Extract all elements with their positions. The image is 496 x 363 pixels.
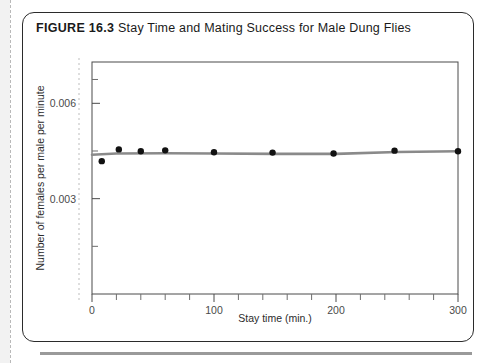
data-point xyxy=(162,147,168,153)
data-point xyxy=(211,149,217,155)
data-point xyxy=(99,158,105,164)
y-axis-title: Number of females per male per minute xyxy=(34,85,46,270)
scatter-chart: 0.0030.006 0100200300 Stay time (min.) N… xyxy=(0,0,496,363)
section-divider-rule xyxy=(40,352,472,355)
y-axis-ticks xyxy=(92,79,100,246)
y-axis-tick-label: 0.006 xyxy=(50,97,76,109)
y-axis-tick-label: 0.003 xyxy=(50,193,76,205)
x-axis-tick-label: 200 xyxy=(327,304,345,316)
x-axis-tick-label: 0 xyxy=(89,304,95,316)
data-point xyxy=(138,148,144,154)
x-axis-ticks xyxy=(92,294,458,302)
data-point xyxy=(391,147,397,153)
x-axis-title: Stay time (min.) xyxy=(238,312,312,324)
data-point xyxy=(116,146,122,152)
data-point xyxy=(330,150,336,156)
x-axis-tick-label: 300 xyxy=(449,304,467,316)
plot-frame xyxy=(92,62,458,294)
data-point xyxy=(455,148,461,154)
data-point xyxy=(269,149,275,155)
data-points xyxy=(99,146,462,164)
y-axis-tick-labels: 0.0030.006 xyxy=(50,97,76,204)
x-axis-tick-label: 100 xyxy=(205,304,223,316)
